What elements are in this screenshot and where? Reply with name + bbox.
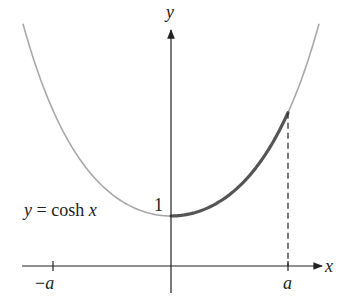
curve-label-y: y [22,200,32,220]
arc-length-highlight [171,113,288,216]
cosh-diagram: y x 1 −a a y = cosh x [0,0,343,308]
curve-label-x: x [88,200,97,220]
y-intercept-label: 1 [154,195,163,215]
curve-label-eq: = cosh [32,200,89,220]
y-axis-label: y [164,2,174,22]
a-symbol: a [45,273,54,293]
curve-label: y = cosh x [22,200,97,220]
tick-label-pos-a: a [283,273,292,293]
minus-sign: − [35,273,45,293]
x-axis-label: x [324,256,333,276]
tick-label-neg-a: −a [35,273,54,293]
